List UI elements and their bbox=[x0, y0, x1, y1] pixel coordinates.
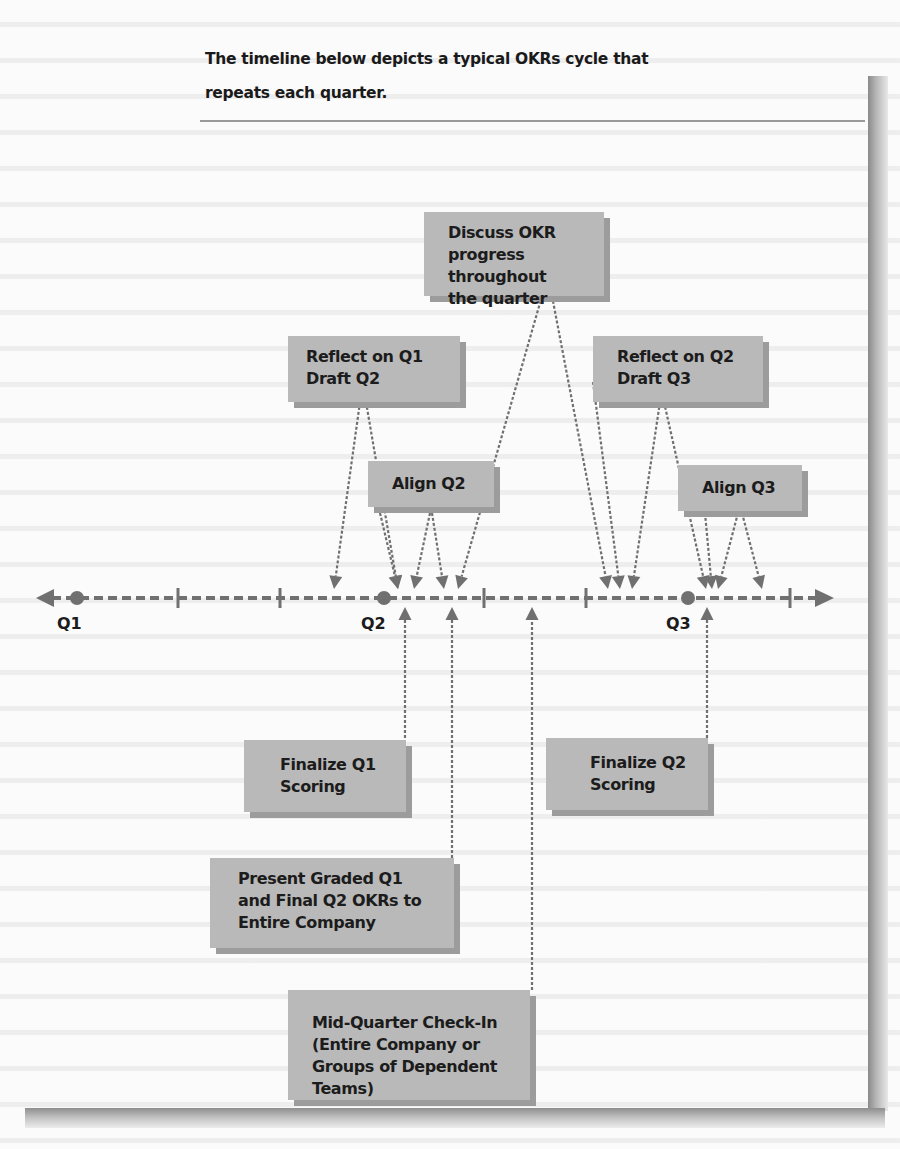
event-label: Mid-Quarter Check-In (Entire Company or … bbox=[312, 1012, 530, 1100]
timeline-right-arrowhead bbox=[815, 589, 834, 607]
connector-arrowhead bbox=[329, 575, 342, 589]
arrow-align-q3-mid bbox=[715, 513, 738, 589]
connector-arrowhead bbox=[612, 575, 625, 589]
event-box-finalize-q1: Finalize Q1 Scoring bbox=[244, 740, 406, 812]
event-box-align-q2: Align Q2 bbox=[368, 461, 494, 507]
connector-line bbox=[417, 513, 430, 576]
connector-arrowhead bbox=[627, 575, 640, 589]
connector-line bbox=[432, 513, 442, 576]
event-box-align-q3: Align Q3 bbox=[678, 465, 802, 511]
connector-arrowhead bbox=[436, 575, 449, 589]
event-label: Align Q3 bbox=[702, 477, 802, 499]
quarter-marker-dot bbox=[377, 591, 391, 605]
connector-line bbox=[336, 402, 360, 576]
arrow-discuss-to-q2-start bbox=[455, 296, 542, 589]
arrow-align-q3-right bbox=[742, 513, 765, 589]
event-label: Align Q2 bbox=[392, 473, 494, 495]
connector-line bbox=[462, 296, 542, 577]
connector-arrowhead bbox=[599, 575, 612, 589]
connector-arrowhead bbox=[701, 607, 714, 620]
event-box-discuss-progress: Discuss OKR progress throughout the quar… bbox=[424, 212, 604, 296]
event-box-reflect-q1: Reflect on Q1 Draft Q2 bbox=[288, 336, 460, 402]
event-label: Finalize Q1 Scoring bbox=[280, 754, 406, 798]
quarter-label-q3: Q3 bbox=[666, 614, 691, 633]
event-label: Reflect on Q2 Draft Q3 bbox=[617, 346, 763, 390]
quarter-marker-dot bbox=[681, 591, 695, 605]
connector-arrowhead bbox=[715, 575, 728, 589]
connector-arrowhead bbox=[389, 575, 402, 589]
connector-line bbox=[593, 382, 618, 576]
event-box-reflect-q2: Reflect on Q2 Draft Q3 bbox=[593, 336, 763, 402]
event-box-finalize-q2: Finalize Q2 Scoring bbox=[546, 738, 708, 810]
event-label: Reflect on Q1 Draft Q2 bbox=[306, 346, 460, 390]
arrow-align-q2-mid bbox=[410, 513, 430, 589]
connector-line bbox=[634, 402, 660, 576]
timeline-diagram bbox=[0, 0, 900, 1149]
arrow-midquarter-up bbox=[526, 607, 539, 990]
quarter-label-q2: Q2 bbox=[361, 614, 386, 633]
arrow-align-q3-left bbox=[704, 513, 717, 589]
connector-line bbox=[742, 513, 759, 576]
event-label: Finalize Q2 Scoring bbox=[590, 752, 708, 796]
connector-arrowhead bbox=[455, 575, 467, 589]
event-label: Discuss OKR progress throughout the quar… bbox=[448, 222, 604, 310]
arrow-align-q2-right bbox=[432, 513, 448, 589]
quarter-label-q1: Q1 bbox=[57, 614, 82, 633]
connector-line bbox=[721, 513, 738, 576]
connector-arrowhead bbox=[410, 575, 423, 589]
connector-arrowhead bbox=[752, 575, 765, 589]
connector-arrowhead bbox=[446, 607, 459, 620]
arrow-reflect-q2-right bbox=[627, 402, 660, 589]
connector-line bbox=[705, 513, 711, 576]
arrow-finalize-q1-up bbox=[399, 607, 412, 738]
connector-arrowhead bbox=[399, 607, 412, 620]
quarter-marker-dot bbox=[70, 591, 84, 605]
arrow-reflect-q2-left bbox=[593, 382, 625, 589]
event-label: Present Graded Q1 and Final Q2 OKRs to E… bbox=[238, 868, 454, 934]
arrow-finalize-q2-up bbox=[701, 607, 714, 738]
connector-arrowhead bbox=[526, 607, 539, 620]
event-box-mid-quarter-check-in: Mid-Quarter Check-In (Entire Company or … bbox=[288, 990, 530, 1100]
arrow-reflect-q1-left bbox=[329, 402, 360, 589]
event-box-present-graded: Present Graded Q1 and Final Q2 OKRs to E… bbox=[210, 858, 454, 948]
arrow-present-up bbox=[446, 607, 459, 858]
timeline-axis bbox=[36, 588, 834, 608]
timeline-left-arrowhead bbox=[36, 589, 54, 607]
